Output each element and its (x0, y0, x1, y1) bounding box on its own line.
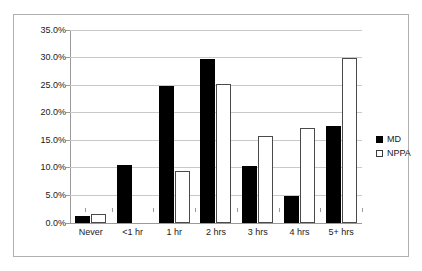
y-axis-label: 5.0% (22, 191, 66, 200)
y-axis-label: 20.0% (22, 108, 66, 117)
y-axis-tick-labels: 0.0%5.0%10.0%15.0%20.0%25.0%30.0%35.0% (17, 30, 66, 223)
x-axis-tick-mark (237, 208, 238, 212)
x-axis-label: <1 hr (112, 227, 154, 237)
bar-md-5hrs (326, 126, 341, 223)
legend-label: NPPA (387, 148, 411, 158)
bar-md-1hr (117, 165, 132, 223)
y-axis-label: 35.0% (22, 26, 66, 35)
bar-md-4hrs (284, 196, 299, 223)
x-axis-label: 5+ hrs (320, 227, 362, 237)
y-axis-label: 25.0% (22, 81, 66, 90)
legend-swatch-icon (376, 136, 383, 143)
bar-nppa-never (91, 214, 106, 223)
bar-nppa-2hrs (216, 84, 231, 224)
x-axis-tick-mark (195, 208, 196, 212)
x-axis-tick-mark (112, 208, 113, 212)
y-axis-label: 15.0% (22, 136, 66, 145)
y-axis-label: 10.0% (22, 163, 66, 172)
bar-nppa-1hr (175, 171, 190, 223)
top-cut-off-text (0, 0, 422, 11)
x-axis-label: 2 hrs (195, 227, 237, 237)
legend-swatch-icon (376, 150, 383, 157)
bar-md-never (75, 216, 90, 223)
legend-item-md: MD (376, 132, 420, 146)
bar-nppa-5hrs (342, 58, 357, 223)
y-axis-label: 30.0% (22, 53, 66, 62)
x-axis-label: 3 hrs (237, 227, 279, 237)
bar-md-2hrs (200, 59, 215, 223)
x-axis-tick-mark (85, 208, 86, 212)
bar-nppa-4hrs (300, 128, 315, 223)
bar-md-1hr (159, 86, 174, 223)
bar-md-3hrs (242, 166, 257, 223)
bar-group (195, 30, 237, 223)
x-axis-tick-mark (279, 208, 280, 212)
x-axis-label: Never (70, 227, 112, 237)
x-axis-tick-mark (362, 208, 363, 212)
bar-group (112, 30, 154, 223)
plot-area (70, 30, 362, 223)
bar-group (320, 30, 362, 223)
x-axis-label: 4 hrs (279, 227, 321, 237)
x-axis-tick-mark (153, 208, 154, 212)
chart-legend: MDNPPA (376, 132, 420, 160)
bar-group (237, 30, 279, 223)
legend-item-nppa: NPPA (376, 146, 420, 160)
x-axis-label: 1 hr (153, 227, 195, 237)
bar-group (279, 30, 321, 223)
bar-group (153, 30, 195, 223)
x-axis-tick-mark (320, 208, 321, 212)
legend-label: MD (387, 134, 401, 144)
chart-figure-frame: 0.0%5.0%10.0%15.0%20.0%25.0%30.0%35.0% N… (13, 14, 409, 257)
bar-group (70, 30, 112, 223)
y-axis-label: 0.0% (22, 219, 66, 228)
bar-nppa-3hrs (258, 136, 273, 223)
